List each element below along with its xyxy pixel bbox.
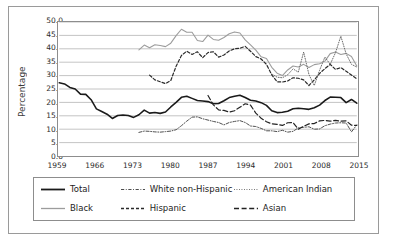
white-non-hispanic-key	[120, 185, 146, 194]
american-indian-key	[233, 185, 259, 194]
legend-item-total[interactable]: Total	[40, 185, 120, 194]
x-tick-label: 1994	[236, 161, 255, 170]
legend-item-hispanic[interactable]: Hispanic	[120, 204, 233, 213]
legend-label: Hispanic	[150, 204, 186, 213]
x-tick-label: 1987	[198, 161, 217, 170]
x-tick-label: 2015	[349, 161, 368, 170]
legend-item-american-indian[interactable]: American Indian	[233, 185, 350, 194]
legend-label: White non-Hispanic	[150, 185, 233, 194]
hispanic-key	[120, 204, 146, 213]
black-key	[40, 204, 66, 213]
legend-label: Total	[70, 185, 90, 194]
legend-label: Asian	[263, 204, 286, 213]
x-tick-label: 2001	[274, 161, 293, 170]
legend-item-asian[interactable]: Asian	[233, 204, 350, 213]
asian-key	[233, 204, 259, 213]
legend-label: American Indian	[263, 185, 332, 194]
total-key	[40, 185, 66, 194]
legend-item-black[interactable]: Black	[40, 204, 120, 213]
x-tick-label: 1973	[123, 161, 142, 170]
chart-frame: Percentage 50.045.040.035.030.025.020.01…	[8, 6, 379, 234]
x-tick-label: 1980	[161, 161, 180, 170]
line-chart: Percentage 50.045.040.035.030.025.020.01…	[9, 7, 380, 235]
legend-item-white-non-hispanic[interactable]: White non-Hispanic	[120, 185, 233, 194]
x-tick-label: 1966	[85, 161, 104, 170]
x-tick-label: 2008	[312, 161, 331, 170]
x-tick-label: 1959	[47, 161, 66, 170]
legend-label: Black	[70, 204, 93, 213]
chart-legend: TotalWhite non-HispanicAmerican IndianBl…	[33, 177, 355, 221]
